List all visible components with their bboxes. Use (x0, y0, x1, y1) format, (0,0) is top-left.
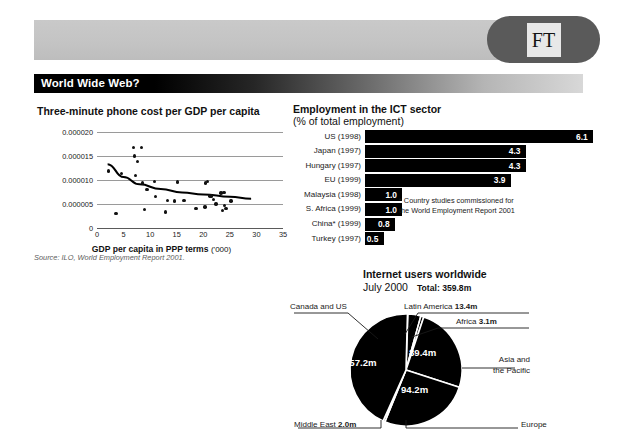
pie-value-middle-east: 2.0m (338, 420, 356, 429)
banner-bar: World Wide Web? (34, 74, 583, 93)
pie-label-asia-line2: the Pacific (477, 366, 530, 375)
pie-value-latin-america: 13.4m (455, 302, 478, 311)
pie-chart-title: Internet users worldwide (363, 268, 487, 280)
scatter-trendline (34, 128, 284, 233)
pie-label-africa-text: Africa (456, 317, 476, 326)
ft-logo: FT (487, 16, 600, 63)
pie-slices (350, 314, 462, 426)
table-row: China* (1999)0.8 (293, 218, 593, 231)
bar-chart-subtitle: (% of total employment) (293, 115, 404, 127)
scatter-point (229, 199, 232, 202)
table-row: Japan (1997)4.3 (293, 145, 593, 158)
bar-fill (365, 145, 526, 158)
pie-value-canada-us: 157.2m (344, 357, 377, 368)
pie-label-africa: Africa 3.1m (456, 317, 497, 326)
scatter-point (114, 212, 117, 215)
pie-label-asia-line1: Asia and (482, 355, 530, 364)
bar-value-label: 3.9 (494, 175, 506, 185)
pie-label-middle-east-text: Middle East (294, 420, 336, 429)
bar-category-label: S. Africa (1999) (306, 204, 361, 213)
bar-fill (365, 159, 526, 172)
bar-value-label: 1.0 (385, 205, 397, 215)
trend-curve (108, 164, 251, 199)
bar-chart-title: Employment in the ICT sector (293, 103, 441, 115)
bar-value-label: 4.3 (509, 146, 521, 156)
bar-fill (365, 130, 593, 143)
ft-logo-text: FT (532, 30, 555, 50)
scatter-point (145, 188, 148, 191)
banner-title: World Wide Web? (41, 77, 140, 89)
scatter-point (173, 199, 176, 202)
bar-value-label: 1.0 (385, 190, 397, 200)
bar-value-label: 6.1 (576, 132, 588, 142)
pie-label-europe: Europe (521, 420, 547, 429)
bar-chart: US (1998)6.1Japan (1997)4.3Hungary (1997… (293, 130, 593, 247)
bar-value-label: 0.8 (378, 219, 390, 229)
scatter-point (134, 174, 137, 177)
bar-category-label: Turkey (1997) (312, 234, 362, 243)
table-row: EU (1999)3.9 (293, 174, 593, 187)
scatter-point (141, 181, 144, 184)
pie-label-latin-america: Latin America 13.4m (404, 302, 477, 311)
scatter-x-axis-title-unit: ('000) (211, 245, 231, 254)
source-note: Source: ILO, World Employment Report 200… (34, 253, 185, 262)
bar-category-label: EU (1999) (325, 175, 361, 184)
scatter-chart-title: Three-minute phone cost per GDP per capi… (37, 105, 260, 117)
scatter-point (222, 191, 225, 194)
bar-value-label: 4.3 (509, 161, 521, 171)
bar-category-label: Japan (1997) (314, 146, 361, 155)
table-row: US (1998)6.1 (293, 130, 593, 143)
scatter-chart: 0.0000200.0000150.0000100.0000050 051015… (34, 128, 284, 233)
scatter-point (214, 202, 217, 205)
bar-category-label: Malaysia (1998) (304, 190, 361, 199)
pie-value-africa: 3.1m (479, 317, 497, 326)
pie-value-asia: 89.4m (409, 347, 436, 358)
table-row: Turkey (1997)0.5 (293, 232, 593, 245)
pie-label-latin-america-text: Latin America (404, 302, 452, 311)
pie-label-canada-us: Canada and US (290, 302, 347, 311)
bar-category-label: Hungary (1997) (305, 161, 361, 170)
pie-value-europe: 94.2m (401, 384, 428, 395)
bar-fill (365, 174, 511, 187)
scatter-point (107, 169, 110, 172)
scatter-point (203, 205, 206, 208)
top-decorative-band (34, 20, 550, 60)
poster-canvas: FT World Wide Web? Three-minute phone co… (0, 0, 617, 441)
table-row: Hungary (1997)4.3 (293, 159, 593, 172)
ft-logo-box: FT (527, 23, 561, 57)
scatter-point (212, 198, 215, 201)
bar-value-label: 0.5 (367, 234, 379, 244)
scatter-point (164, 210, 167, 213)
pie-label-middle-east: Middle East 2.0m (294, 420, 356, 429)
bar-category-label: China* (1999) (312, 219, 361, 228)
bar-chart-footnote: * Country studies commissioned for the W… (399, 196, 519, 217)
bar-category-label: US (1998) (325, 132, 361, 141)
pie-chart (286, 290, 617, 440)
scatter-point (136, 160, 139, 163)
